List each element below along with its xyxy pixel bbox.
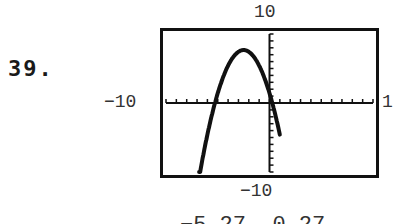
problem-number: 39. <box>8 56 54 81</box>
answer-text: −5.27, 0.27 <box>180 213 325 224</box>
ymin-label: −10 <box>240 181 272 201</box>
parabola-plot <box>160 28 379 178</box>
ymax-label: 10 <box>254 2 276 22</box>
xmax-label: 1 <box>382 92 393 112</box>
xmin-label: −10 <box>104 92 136 112</box>
graph-window <box>160 28 379 178</box>
